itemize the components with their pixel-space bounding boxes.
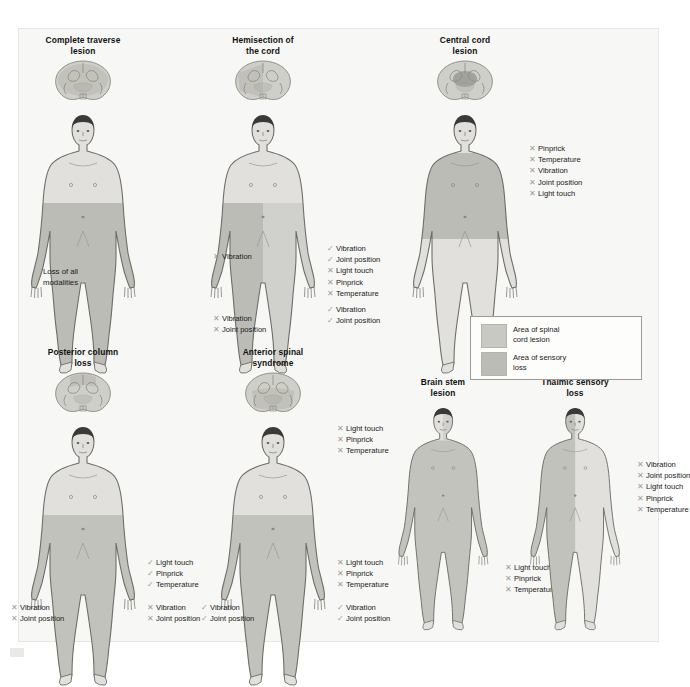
modality-list-left-feet: VibrationJoint position xyxy=(201,602,254,624)
check-icon xyxy=(327,243,336,253)
modality-row: Vibration xyxy=(337,602,390,613)
modality-row: Light touch xyxy=(637,481,690,492)
modality-label: Pinprick xyxy=(346,569,373,578)
modality-list-left-lower: VibrationJoint position xyxy=(213,313,266,335)
modality-row: Joint position xyxy=(327,254,380,265)
cross-icon xyxy=(213,251,222,261)
modality-row: Temperature xyxy=(529,154,582,165)
cross-icon xyxy=(337,568,346,578)
modality-row: Temperature xyxy=(147,579,199,590)
modality-list-right-lower: Light touchPinprickTemperature xyxy=(337,557,389,596)
cross-icon xyxy=(337,423,346,433)
modality-label: Temperature xyxy=(346,580,389,589)
modality-row: Temperature xyxy=(337,445,389,456)
modality-row: Light touch xyxy=(327,265,380,276)
cross-icon xyxy=(327,288,336,298)
modality-label: Temperature xyxy=(346,446,389,455)
modality-row: Vibration xyxy=(637,459,690,470)
spinal-cord-cross-section xyxy=(52,59,114,103)
modality-label: Vibration xyxy=(346,603,376,612)
modality-row: Vibration xyxy=(213,313,266,324)
modality-row: Temperature xyxy=(327,288,380,299)
legend-label-1: Area of sensory loss xyxy=(513,353,566,372)
check-icon xyxy=(337,613,346,623)
modality-row: Temperature xyxy=(637,504,690,515)
modality-row: Temperature xyxy=(337,579,389,590)
modality-label: Vibration xyxy=(538,166,568,175)
modality-label: Joint position xyxy=(156,614,200,623)
modality-label: Vibration xyxy=(156,603,186,612)
spinal-cord-cross-section xyxy=(52,371,114,415)
cross-icon xyxy=(327,265,336,275)
cross-icon xyxy=(505,562,514,572)
plain-label: Loss of all modalities xyxy=(43,267,78,288)
cross-icon xyxy=(529,154,538,164)
figure-panel: Complete traverse lesion xyxy=(18,28,659,642)
modality-label: Vibration xyxy=(222,252,252,261)
check-icon xyxy=(327,315,336,325)
modality-label: Temperature xyxy=(336,289,379,298)
modality-label: Joint position xyxy=(210,614,254,623)
modality-label: Pinprick xyxy=(156,569,183,578)
modality-label: Pinprick xyxy=(538,144,565,153)
modality-label: Light touch xyxy=(538,189,575,198)
cross-icon xyxy=(529,143,538,153)
check-icon xyxy=(201,613,210,623)
modality-row: Pinprick xyxy=(529,143,582,154)
modality-row: Joint position xyxy=(11,613,64,624)
cross-icon xyxy=(11,613,20,623)
human-figure xyxy=(527,401,623,631)
cross-icon xyxy=(505,584,514,594)
check-icon xyxy=(147,568,156,578)
cross-icon xyxy=(147,613,156,623)
panel-title: Central cord lesion xyxy=(409,35,521,57)
modality-row: Vibration xyxy=(327,243,380,254)
legend-swatch-0 xyxy=(481,324,507,348)
modality-row: Joint position xyxy=(327,315,380,326)
modality-label: Light touch xyxy=(346,558,383,567)
cross-icon xyxy=(11,602,20,612)
check-icon xyxy=(337,602,346,612)
modality-row: Joint position xyxy=(637,470,690,481)
footer-mark xyxy=(10,648,24,657)
panel-title: Anterior spinal syndrome xyxy=(217,347,329,369)
modality-row: Pinprick xyxy=(637,493,690,504)
check-icon xyxy=(201,602,210,612)
legend-swatch-1 xyxy=(481,352,507,376)
modality-label: Joint position xyxy=(346,614,390,623)
panel-title: Thalmic sensory loss xyxy=(519,377,631,399)
modality-label: Joint position xyxy=(222,325,266,334)
modality-label: Vibration xyxy=(222,314,252,323)
modality-label: Vibration xyxy=(20,603,50,612)
panel-title: Posterior column loss xyxy=(27,347,139,369)
modality-list-left-feet: VibrationJoint position xyxy=(11,602,64,624)
panel-title: Brain stem lesion xyxy=(387,377,499,399)
check-icon xyxy=(147,557,156,567)
modality-label: Temperature xyxy=(538,155,581,164)
human-figure xyxy=(395,401,491,631)
check-icon xyxy=(327,254,336,264)
modality-list-right-feet: VibrationJoint position xyxy=(337,602,390,624)
modality-label: Joint position xyxy=(20,614,64,623)
modality-list-right-upper: VibrationJoint positionLight touchPinpri… xyxy=(327,243,380,326)
modality-row: Pinprick xyxy=(327,277,380,288)
modality-label: Pinprick xyxy=(646,494,673,503)
panel-title: Complete traverse lesion xyxy=(27,35,139,57)
check-icon xyxy=(147,579,156,589)
cross-icon xyxy=(529,165,538,175)
modality-label: Joint position xyxy=(336,255,380,264)
modality-label: Pinprick xyxy=(336,278,363,287)
cross-icon xyxy=(637,481,646,491)
modality-row: Light touch xyxy=(529,188,582,199)
modality-list-right-feet: VibrationJoint position xyxy=(147,602,200,624)
modality-row: Light touch xyxy=(337,423,389,434)
modality-label: Pinprick xyxy=(346,435,373,444)
cross-icon xyxy=(327,277,336,287)
modality-row: Joint position xyxy=(213,324,266,335)
spinal-cord-cross-section xyxy=(434,59,496,103)
list-gap xyxy=(337,591,389,596)
modality-row: Vibration xyxy=(11,602,64,613)
modality-label: Light touch xyxy=(646,482,683,491)
modality-row: Pinprick xyxy=(147,568,199,579)
human-figure xyxy=(217,419,329,687)
